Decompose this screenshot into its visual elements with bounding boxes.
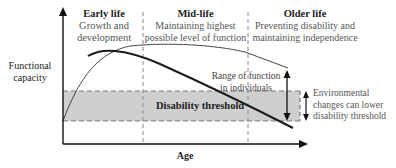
env-arrow-down-icon <box>303 114 309 121</box>
stage-desc-line2: maintaining independence <box>250 32 360 44</box>
stage-title: Mid-life <box>143 8 248 20</box>
y-axis-label-line2: capacity <box>2 72 58 84</box>
env-arrow-up-icon <box>303 91 309 98</box>
stage-title: Early life <box>68 8 140 20</box>
stage-desc-line1: Preventing disability and <box>250 20 360 32</box>
disability-threshold-label: Disability threshold <box>156 100 244 111</box>
range-label-line2: in individuals <box>206 83 286 95</box>
x-axis-label: Age <box>170 150 200 162</box>
stage-desc-line2: development <box>68 32 140 44</box>
environmental-changes-label: Environmental changes can lower disabili… <box>313 88 396 123</box>
range-of-function-label: Range of function in individuals <box>206 71 286 94</box>
env-label-line1: Environmental <box>313 88 396 100</box>
stage-desc-line1: Maintaining highest <box>143 20 248 32</box>
env-label-line3: disability threshold <box>313 111 396 123</box>
stage-desc-line2: possible level of function <box>143 32 248 44</box>
stage-title: Older life <box>250 8 360 20</box>
stage-desc-line1: Growth and <box>68 20 140 32</box>
stage-older-life: Older life Preventing disability and mai… <box>250 8 360 44</box>
y-axis-label-line1: Functional <box>2 60 58 72</box>
env-label-line2: changes can lower <box>313 100 396 112</box>
stage-mid-life: Mid-life Maintaining highest possible le… <box>143 8 248 44</box>
y-axis-label: Functional capacity <box>2 60 58 84</box>
y-axis-arrow-icon <box>59 7 67 16</box>
range-label-line1: Range of function <box>206 71 286 83</box>
x-axis-arrow-icon <box>299 140 308 148</box>
stage-early-life: Early life Growth and development <box>68 8 140 44</box>
